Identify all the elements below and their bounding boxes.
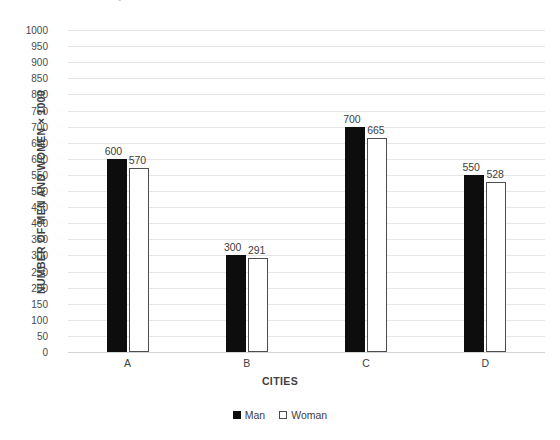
y-tick-label: 250	[8, 266, 48, 277]
y-tick-label: 900	[8, 57, 48, 68]
data-label-woman: 665	[367, 124, 385, 136]
bar-group: 600570	[107, 30, 149, 352]
bar-woman[interactable]	[248, 258, 268, 352]
y-tick-label: 850	[8, 73, 48, 84]
y-tick-label: 300	[8, 250, 48, 261]
bar-woman[interactable]	[486, 182, 506, 352]
y-tick-label: 500	[8, 186, 48, 197]
y-tick-label: 650	[8, 137, 48, 148]
x-axis-title: CITIES	[0, 375, 560, 387]
bar-man[interactable]	[345, 127, 365, 352]
bar-woman[interactable]	[129, 168, 149, 352]
bar-group: 550528	[464, 30, 506, 352]
legend-swatch-outlined-square-icon	[279, 411, 287, 419]
x-tick-label: D	[455, 357, 515, 369]
bar-group: 700665	[345, 30, 387, 352]
legend-item-woman[interactable]: Woman	[279, 409, 327, 421]
bar-man[interactable]	[226, 255, 246, 352]
y-tick-label: 400	[8, 218, 48, 229]
x-tick-label: B	[217, 357, 277, 369]
chart-title: The result of a survey of men and women …	[26, 0, 270, 1]
y-tick-label: 450	[8, 202, 48, 213]
data-label-man: 300	[224, 241, 242, 253]
bar-man[interactable]	[107, 159, 127, 352]
y-tick-label: 100	[8, 314, 48, 325]
data-label-man: 550	[462, 161, 480, 173]
y-tick-label: 800	[8, 89, 48, 100]
legend-swatch-filled-square-icon	[233, 411, 241, 419]
y-tick-label: 150	[8, 298, 48, 309]
y-tick-label: 1000	[8, 25, 48, 36]
y-tick-label: 600	[8, 153, 48, 164]
chart-legend: ManWoman	[0, 409, 560, 421]
axis-baseline	[68, 352, 545, 353]
bar-man[interactable]	[464, 175, 484, 352]
y-tick-label: 200	[8, 282, 48, 293]
y-tick-label: 0	[8, 347, 48, 358]
bar-woman[interactable]	[367, 138, 387, 352]
y-tick-label: 750	[8, 105, 48, 116]
data-label-woman: 291	[248, 244, 266, 256]
legend-label: Woman	[291, 409, 327, 421]
y-tick-label: 700	[8, 121, 48, 132]
y-tick-label: 50	[8, 330, 48, 341]
data-label-man: 700	[343, 113, 361, 125]
y-tick-label: 350	[8, 234, 48, 245]
x-tick-label: C	[336, 357, 396, 369]
legend-label: Man	[245, 409, 265, 421]
data-label-woman: 570	[129, 154, 147, 166]
legend-item-man[interactable]: Man	[233, 409, 265, 421]
y-tick-label: 950	[8, 41, 48, 52]
x-tick-label: A	[98, 357, 158, 369]
bar-group: 300291	[226, 30, 268, 352]
y-tick-label: 550	[8, 169, 48, 180]
data-label-man: 600	[105, 145, 123, 157]
data-label-woman: 528	[486, 168, 504, 180]
plot-area: 1000950900850800750700650600550500450400…	[68, 30, 545, 352]
